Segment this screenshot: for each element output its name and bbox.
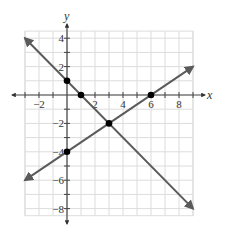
y-tick-label: −4 xyxy=(52,146,64,158)
x-axis-label: x xyxy=(206,88,213,102)
y-tick-label: −6 xyxy=(52,174,64,186)
data-point xyxy=(64,78,71,85)
y-tick-label: −8 xyxy=(52,203,64,215)
y-tick-label: 2 xyxy=(59,61,65,73)
x-tick-label: 8 xyxy=(176,98,182,110)
data-point xyxy=(148,92,155,99)
y-axis-label: y xyxy=(63,9,70,23)
data-point xyxy=(78,92,85,99)
x-tick-label: 4 xyxy=(120,98,126,110)
data-point xyxy=(64,149,71,156)
data-point xyxy=(106,120,113,127)
y-tick-label: 4 xyxy=(59,32,65,44)
y-tick-label: −2 xyxy=(52,117,64,129)
coordinate-plane: −2246842−2−4−6−8 x y xyxy=(0,0,225,229)
x-tick-label: −2 xyxy=(33,98,45,110)
x-tick-label: 6 xyxy=(148,98,154,110)
